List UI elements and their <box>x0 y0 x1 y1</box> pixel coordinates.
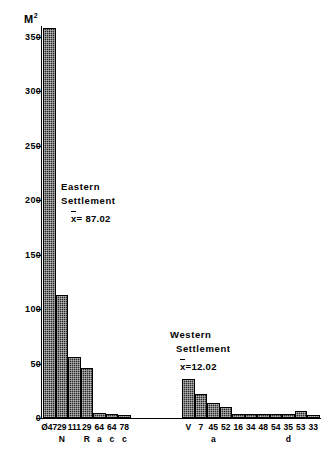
y-axis-tick-label: 100 <box>7 304 41 314</box>
y-axis-tick-label: 200 <box>7 195 41 205</box>
annotation-western-settlement: Western Settlement x=12.02 <box>170 328 231 374</box>
y-axis-tick-label: 300 <box>7 86 41 96</box>
annotation-eastern-line2: Settlement <box>61 194 116 208</box>
y-axis-tick-label: 150 <box>7 250 41 260</box>
bar <box>56 295 69 418</box>
y-axis-unit-label: M2 <box>24 12 38 25</box>
bar <box>270 414 283 418</box>
bar <box>295 411 308 418</box>
x-axis-line <box>41 418 321 419</box>
annotation-eastern-mean: x= 87.02 <box>61 212 116 226</box>
y-axis-tick: 0 <box>0 418 41 419</box>
x-axis-tick-label-sub: d <box>280 433 297 446</box>
bar <box>220 407 233 418</box>
bar <box>282 414 295 418</box>
bar <box>106 414 119 418</box>
y-axis-tick: 350 <box>0 37 41 38</box>
y-axis-tick-label: 250 <box>7 141 41 151</box>
x-axis-tick-label: 33 <box>305 422 322 433</box>
x-bar-symbol-icon: x <box>180 360 186 374</box>
annotation-eastern-settlement: Eastern Settlement x= 87.02 <box>61 180 116 226</box>
annotation-western-mean: x=12.02 <box>170 360 231 374</box>
bar <box>232 414 245 418</box>
y-axis-tick: 150 <box>0 255 41 256</box>
bar <box>68 357 81 418</box>
annotation-eastern-mean-value: = 87.02 <box>77 213 111 224</box>
bar <box>245 414 258 418</box>
bar <box>207 403 220 418</box>
x-axis-tick-label-sub: c <box>116 433 133 446</box>
y-axis-tick-label: 350 <box>7 32 41 42</box>
x-bar-symbol-icon: x <box>71 212 77 226</box>
y-axis-unit-exponent: 2 <box>34 12 38 19</box>
x-axis-tick-label-number: 33 <box>305 422 322 433</box>
x-axis-tick-label-sub: N <box>54 433 71 446</box>
bar <box>307 415 320 418</box>
annotation-western-line1: Western <box>170 329 212 340</box>
x-axis-labels: Ø4729N11129R64a64c78cV745a521634485435d5… <box>0 422 332 472</box>
x-axis-tick-label-number: 78 <box>116 422 133 433</box>
x-axis-tick-label: 78c <box>116 422 133 446</box>
annotation-western-line2: Settlement <box>170 342 231 356</box>
y-axis-tick: 50 <box>0 364 41 365</box>
y-axis-unit-main: M <box>24 13 34 25</box>
bar <box>81 368 94 418</box>
y-axis-tick: 300 <box>0 91 41 92</box>
y-axis-tick-label: 50 <box>7 359 41 369</box>
annotation-eastern-line1: Eastern <box>61 181 100 192</box>
bar <box>182 379 195 418</box>
bar <box>43 28 56 418</box>
y-axis-tick: 200 <box>0 200 41 201</box>
bar <box>257 414 270 418</box>
bar <box>195 394 208 418</box>
bar-chart: M2 050100150200250300350 Eastern Settlem… <box>0 0 332 474</box>
annotation-western-mean-value: =12.02 <box>186 361 217 372</box>
y-axis-tick: 250 <box>0 146 41 147</box>
y-axis-tick: 100 <box>0 309 41 310</box>
x-axis-tick-label-sub: a <box>205 433 222 446</box>
bar <box>93 413 106 418</box>
bar <box>118 415 131 418</box>
